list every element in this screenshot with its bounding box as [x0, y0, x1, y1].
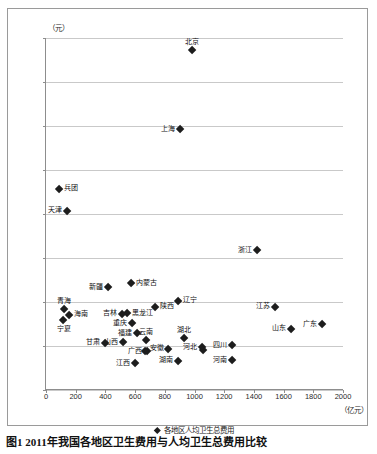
data-point-label: 吉林: [103, 309, 117, 317]
data-point-label: 黑龙江: [132, 309, 153, 317]
data-point-label: 河南: [213, 356, 227, 364]
scatter-plot-area: 100015002000250030003500400045005000 020…: [45, 38, 342, 390]
y-tick-mark: [43, 214, 46, 215]
data-point-label: 重庆: [113, 319, 127, 327]
diamond-marker-icon: [131, 359, 140, 368]
data-point-label: 青海: [57, 297, 71, 305]
x-tick-mark: [254, 390, 255, 393]
diamond-marker-icon: [175, 125, 184, 134]
y-tick-mark: [43, 82, 46, 83]
diamond-marker-icon: [174, 296, 183, 305]
x-tick-label: 800: [150, 392, 180, 401]
x-tick-mark: [165, 390, 166, 393]
y-tick-mark: [43, 170, 46, 171]
diamond-marker-icon: [228, 341, 237, 350]
data-point-label: 宁夏: [57, 325, 71, 333]
x-tick-label: 0: [31, 392, 61, 401]
diamond-marker-icon: [104, 283, 113, 292]
data-point-label: 兵团: [64, 184, 78, 192]
data-point-label: 云南: [139, 328, 153, 336]
data-point-label: 四川: [213, 341, 227, 349]
x-tick-mark: [76, 390, 77, 393]
x-tick-mark: [195, 390, 196, 393]
x-tick-mark: [343, 390, 344, 393]
gridline: [46, 170, 343, 171]
diamond-marker-icon: [188, 46, 197, 55]
data-point-label: 甘肃: [86, 338, 100, 346]
data-point-label: 福建: [118, 329, 132, 337]
y-tick-mark: [43, 38, 46, 39]
gridline: [46, 258, 343, 259]
x-tick-label: 1000: [180, 392, 210, 401]
diamond-marker-icon: [287, 324, 296, 333]
gridline: [46, 126, 343, 127]
x-tick-label: 1400: [239, 392, 269, 401]
y-tick-mark: [43, 126, 46, 127]
diamond-marker-icon: [174, 357, 183, 366]
data-point-label: 浙江: [238, 246, 252, 254]
data-point-label: 辽宁: [183, 296, 197, 304]
x-tick-mark: [313, 390, 314, 393]
data-point-label: 河北: [183, 343, 197, 351]
diamond-marker-icon: [252, 246, 261, 255]
y-tick-mark: [43, 258, 46, 259]
x-tick-label: 1600: [269, 392, 299, 401]
figure-container: （元） （亿元） 1000150020002500300035004000450…: [0, 0, 377, 454]
diamond-marker-icon: [55, 185, 64, 194]
data-point-label: 山东: [272, 324, 286, 332]
x-axis-line: [46, 389, 343, 390]
chart-legend: 各地区人均卫生总费用: [46, 424, 343, 435]
x-axis-unit-label: （亿元）: [340, 404, 368, 415]
diamond-marker-icon: [128, 319, 137, 328]
diamond-marker-icon: [199, 346, 208, 355]
data-point-label: 上海: [161, 125, 175, 133]
x-tick-label: 200: [61, 392, 91, 401]
x-tick-label: 1800: [298, 392, 328, 401]
diamond-marker-icon: [228, 356, 237, 365]
data-point-label: 江苏: [256, 302, 270, 310]
x-tick-label: 2000: [328, 392, 358, 401]
x-tick-mark: [105, 390, 106, 393]
diamond-marker-icon: [154, 427, 160, 433]
diamond-marker-icon: [126, 279, 135, 288]
x-tick-label: 400: [90, 392, 120, 401]
diamond-marker-icon: [318, 320, 327, 329]
x-tick-mark: [46, 390, 47, 393]
x-tick-mark: [284, 390, 285, 393]
data-point-label: 天津: [48, 206, 62, 214]
data-point-label: 内蒙古: [136, 279, 157, 287]
figure-caption: 图1 2011年我国各地区卫生费用与人均卫生总费用比较: [6, 436, 372, 449]
x-tick-label: 1200: [209, 392, 239, 401]
diamond-marker-icon: [180, 333, 189, 342]
y-tick-mark: [43, 302, 46, 303]
gridline: [46, 214, 343, 215]
data-point-label: 新疆: [89, 283, 103, 291]
y-axis-unit-label: （元）: [48, 22, 69, 33]
y-tick-mark: [43, 346, 46, 347]
x-tick-mark: [224, 390, 225, 393]
x-tick-label: 600: [120, 392, 150, 401]
data-point-label: 北京: [185, 38, 199, 46]
data-point-label: 海南: [74, 310, 88, 318]
legend-label: 各地区人均卫生总费用: [164, 426, 234, 435]
data-point-label: 湖北: [177, 326, 191, 334]
data-point-label: 湖南: [159, 356, 173, 364]
data-point-label: 陕西: [160, 302, 174, 310]
data-point-label: 广东: [303, 320, 317, 328]
diamond-marker-icon: [271, 302, 280, 311]
x-tick-mark: [135, 390, 136, 393]
data-point-label: 江西: [116, 359, 130, 367]
gridline: [46, 82, 343, 83]
